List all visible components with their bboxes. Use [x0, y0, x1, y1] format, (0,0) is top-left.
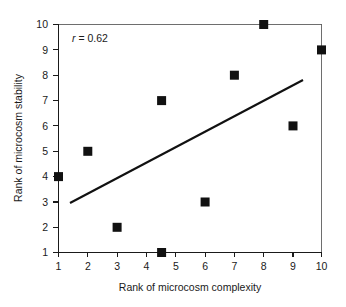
data-point-marker [289, 121, 298, 130]
data-point-marker [230, 71, 239, 80]
data-point-marker [113, 223, 122, 232]
data-point-marker [157, 96, 166, 105]
x-tick-label-4: 4 [143, 260, 149, 272]
y-tick-label-4: 4 [42, 170, 48, 182]
data-point-marker [157, 248, 166, 257]
x-tick-label-9: 9 [290, 260, 296, 272]
data-point-marker [201, 198, 210, 207]
data-point-marker [317, 45, 326, 54]
y-tick-label-9: 9 [42, 44, 48, 56]
correlation-value: = 0.62 [76, 32, 109, 44]
correlation-annotation-text: r = 0.62 [72, 32, 108, 44]
x-tick-label-10: 10 [316, 260, 328, 272]
axes [58, 24, 322, 253]
x-tick-label-2: 2 [85, 260, 91, 272]
x-tick-label-1: 1 [56, 260, 62, 272]
plot-canvas: 10 9 8 7 6 5 4 3 2 1 1 2 3 4 [0, 0, 346, 307]
x-tick-label-7: 7 [231, 260, 237, 272]
plot-frame [58, 24, 322, 252]
x-axis-title: Rank of microcosm complexity [119, 281, 262, 293]
x-tick-label-6: 6 [202, 260, 208, 272]
y-tick-label-1: 1 [42, 246, 48, 258]
data-point-marker [54, 172, 63, 181]
y-tick-label-2: 2 [42, 221, 48, 233]
y-axis-title: Rank of microcosm stability [12, 73, 24, 202]
data-point-marker [83, 147, 92, 156]
y-axis-ticks: 10 9 8 7 6 5 4 3 2 1 [36, 18, 58, 258]
y-tick-label-10: 10 [36, 18, 48, 30]
x-tick-label-5: 5 [173, 260, 179, 272]
x-axis-ticks: 1 2 3 4 5 6 7 8 9 10 [56, 252, 328, 272]
x-tick-label-3: 3 [114, 260, 120, 272]
y-tick-label-3: 3 [42, 196, 48, 208]
y-tick-label-6: 6 [42, 120, 48, 132]
scatter-plot-figure: 10 9 8 7 6 5 4 3 2 1 1 2 3 4 [0, 0, 346, 307]
y-tick-label-8: 8 [42, 69, 48, 81]
y-tick-label-5: 5 [42, 145, 48, 157]
correlation-annotation: r = 0.62 [72, 32, 108, 44]
data-point-marker [259, 20, 268, 29]
trendline [70, 80, 303, 203]
y-tick-label-7: 7 [42, 94, 48, 106]
x-tick-label-8: 8 [261, 260, 267, 272]
